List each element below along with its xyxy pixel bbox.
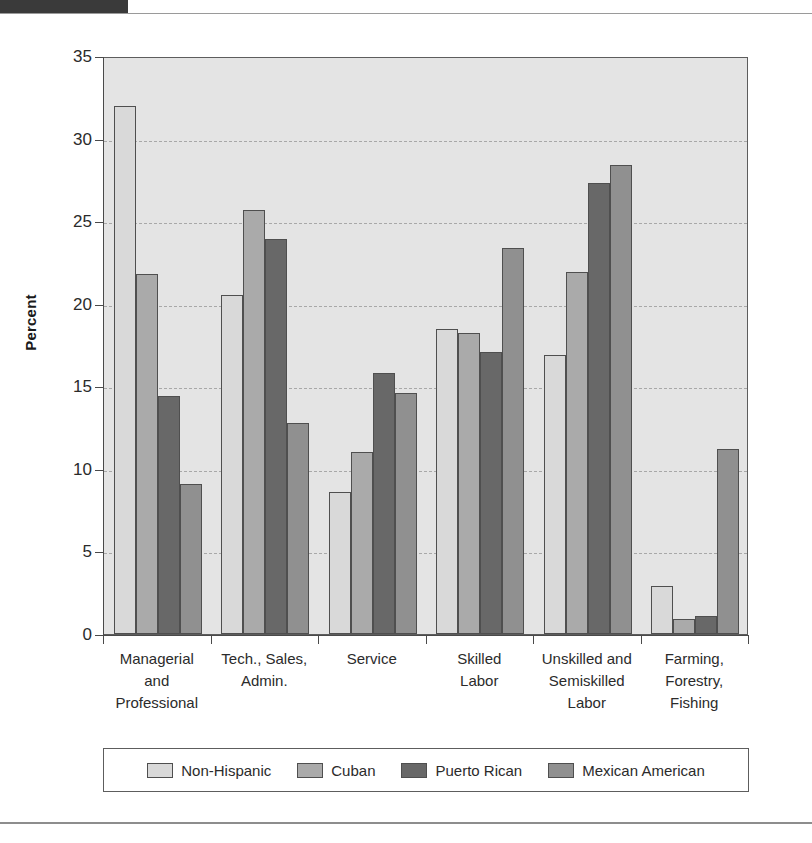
y-axis-tick bbox=[95, 552, 104, 553]
legend-label: Cuban bbox=[331, 762, 375, 779]
legend-swatch bbox=[147, 763, 173, 778]
bar-group bbox=[534, 58, 642, 634]
bar bbox=[458, 333, 480, 634]
y-axis-tick bbox=[95, 222, 104, 223]
bar bbox=[329, 492, 351, 634]
y-axis-tick bbox=[95, 305, 104, 306]
legend-item[interactable]: Puerto Rican bbox=[401, 762, 522, 779]
bar bbox=[287, 423, 309, 634]
bar bbox=[588, 183, 610, 634]
chart-page: Percent 05101520253035 ManagerialandProf… bbox=[0, 0, 812, 843]
y-axis-tick bbox=[95, 57, 104, 58]
bar bbox=[480, 352, 502, 634]
y-axis-tick-label: 10 bbox=[32, 461, 92, 478]
y-axis-tick-label: 5 bbox=[32, 543, 92, 560]
bar-group bbox=[212, 58, 320, 634]
bar-group bbox=[319, 58, 427, 634]
y-axis-tick-label: 15 bbox=[32, 378, 92, 395]
x-axis-tick bbox=[211, 635, 212, 644]
legend-swatch bbox=[548, 763, 574, 778]
page-header-strip bbox=[0, 0, 812, 14]
bar bbox=[673, 619, 695, 634]
x-axis-category-label: Farming,Forestry,Fishing bbox=[633, 648, 757, 713]
plot-area bbox=[103, 57, 748, 635]
bar bbox=[436, 329, 458, 635]
header-tab-block bbox=[0, 0, 128, 13]
bar bbox=[610, 165, 632, 634]
bar-group bbox=[104, 58, 212, 634]
legend-item[interactable]: Non-Hispanic bbox=[147, 762, 271, 779]
bar bbox=[717, 449, 739, 634]
x-axis-tick bbox=[318, 635, 319, 644]
bar bbox=[243, 210, 265, 634]
x-axis-category-label: Unskilled andSemiskilledLabor bbox=[525, 648, 649, 713]
x-axis-tick bbox=[103, 635, 104, 644]
y-axis-tick-labels: 05101520253035 bbox=[10, 14, 92, 714]
y-axis-tick bbox=[95, 140, 104, 141]
bar bbox=[180, 484, 202, 634]
y-axis-tick-label: 30 bbox=[32, 131, 92, 148]
legend-swatch bbox=[297, 763, 323, 778]
bar bbox=[158, 396, 180, 634]
x-axis-category-label: Tech., Sales,Admin. bbox=[203, 648, 327, 692]
legend-item[interactable]: Mexican American bbox=[548, 762, 705, 779]
y-axis-tick bbox=[95, 470, 104, 471]
bar-group bbox=[427, 58, 535, 634]
y-axis-line bbox=[103, 57, 104, 636]
x-axis-tick bbox=[748, 635, 749, 644]
bar-chart: Percent 05101520253035 ManagerialandProf… bbox=[0, 14, 812, 820]
header-caption bbox=[140, 0, 760, 11]
y-axis-tick-label: 35 bbox=[32, 48, 92, 65]
x-axis-category-label: Service bbox=[310, 648, 434, 670]
x-axis-tick bbox=[641, 635, 642, 644]
bar bbox=[373, 373, 395, 634]
bar bbox=[351, 452, 373, 634]
y-axis-tick-label: 20 bbox=[32, 296, 92, 313]
chart-legend: Non-HispanicCubanPuerto RicanMexican Ame… bbox=[103, 748, 749, 792]
bar bbox=[395, 393, 417, 634]
bar bbox=[502, 248, 524, 634]
page-footer-divider bbox=[0, 822, 812, 824]
x-axis-category-label: SkilledLabor bbox=[418, 648, 542, 692]
legend-item[interactable]: Cuban bbox=[297, 762, 375, 779]
bar bbox=[544, 355, 566, 634]
y-axis-tick bbox=[95, 387, 104, 388]
y-axis-tick-label: 25 bbox=[32, 213, 92, 230]
legend-label: Mexican American bbox=[582, 762, 705, 779]
legend-label: Puerto Rican bbox=[435, 762, 522, 779]
legend-swatch bbox=[401, 763, 427, 778]
bar bbox=[651, 586, 673, 634]
x-axis-tick bbox=[533, 635, 534, 644]
x-axis-tick bbox=[426, 635, 427, 644]
bar bbox=[136, 274, 158, 634]
legend-label: Non-Hispanic bbox=[181, 762, 271, 779]
bar bbox=[221, 295, 243, 634]
bar bbox=[566, 272, 588, 634]
bar bbox=[695, 616, 717, 634]
y-axis-tick-label: 0 bbox=[32, 626, 92, 643]
bar bbox=[265, 239, 287, 634]
x-axis-category-label: ManagerialandProfessional bbox=[95, 648, 219, 713]
bar-group bbox=[642, 58, 750, 634]
bar bbox=[114, 106, 136, 634]
